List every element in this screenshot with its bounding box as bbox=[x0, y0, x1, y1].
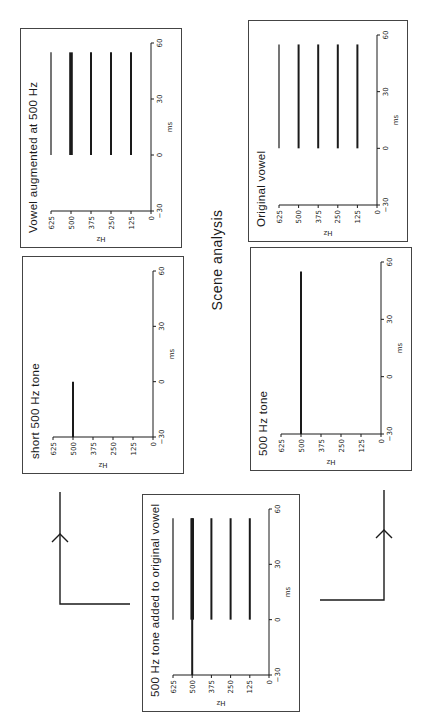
right-connector-arrow-icon bbox=[320, 490, 392, 600]
scene-analysis-figure: Scene analysis Vowel augmented at 500 Hz… bbox=[0, 0, 422, 714]
left-connector-arrow-icon bbox=[52, 492, 130, 604]
connector-arrows bbox=[0, 0, 422, 714]
